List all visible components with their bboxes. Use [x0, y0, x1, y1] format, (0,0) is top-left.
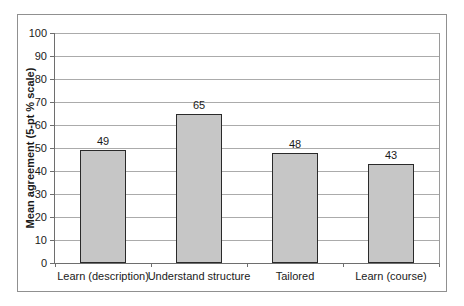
y-tick-mark-50	[50, 148, 55, 149]
bar-value-label-1: 49	[97, 135, 109, 147]
category-label-4: Learn (course)	[355, 270, 427, 282]
x-tick-mark-4	[439, 264, 440, 267]
bar-value-label-2: 65	[193, 99, 205, 111]
x-tick-mark-2	[247, 264, 248, 267]
gridline-y-80	[55, 79, 439, 80]
gridline-y-70	[55, 102, 439, 103]
x-tick-mark-3	[343, 264, 344, 267]
x-tick-mark-0	[55, 264, 56, 267]
category-label-3: Tailored	[276, 270, 315, 282]
y-tick-label-30: 30	[35, 188, 47, 200]
y-tick-mark-100	[50, 33, 55, 34]
y-tick-mark-30	[50, 194, 55, 195]
bar-value-label-3: 48	[289, 138, 301, 150]
y-tick-mark-10	[50, 240, 55, 241]
y-tick-label-20: 20	[35, 211, 47, 223]
gridline-y-100	[55, 33, 439, 34]
bar-3	[272, 153, 318, 263]
gridline-y-50	[55, 148, 439, 149]
chart-frame: Mean agreement (5-pt % scale) 0102030405…	[17, 14, 447, 292]
y-tick-mark-40	[50, 171, 55, 172]
y-tick-label-80: 80	[35, 73, 47, 85]
bar-4	[368, 164, 414, 263]
category-label-1: Learn (description)	[57, 270, 149, 282]
y-tick-label-60: 60	[35, 119, 47, 131]
y-tick-mark-20	[50, 217, 55, 218]
y-tick-mark-90	[50, 56, 55, 57]
bar-2	[176, 114, 222, 264]
y-tick-mark-60	[50, 125, 55, 126]
x-tick-mark-1	[151, 264, 152, 267]
gridline-y-60	[55, 125, 439, 126]
bar-1	[80, 150, 126, 263]
y-tick-label-100: 100	[29, 27, 47, 39]
plot-area: 010203040506070809010049Learn (descripti…	[54, 33, 440, 264]
y-tick-label-90: 90	[35, 50, 47, 62]
category-label-2: Understand structure	[148, 270, 251, 282]
gridline-y-90	[55, 56, 439, 57]
bar-value-label-4: 43	[385, 149, 397, 161]
y-tick-label-40: 40	[35, 165, 47, 177]
y-tick-label-0: 0	[41, 257, 47, 269]
y-tick-label-70: 70	[35, 96, 47, 108]
y-tick-label-50: 50	[35, 142, 47, 154]
y-tick-label-10: 10	[35, 234, 47, 246]
y-tick-mark-70	[50, 102, 55, 103]
y-tick-mark-80	[50, 79, 55, 80]
